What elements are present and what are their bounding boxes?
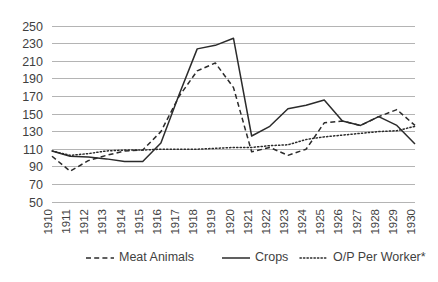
x-tick-label-1923: 1923	[278, 209, 290, 235]
chart-container: 250230210190170150130110907050 191019111…	[0, 0, 438, 282]
x-tick-label-1917: 1917	[169, 209, 181, 235]
x-tick-label-1911: 1911	[60, 209, 72, 234]
x-tick-label-1912: 1912	[78, 209, 90, 235]
y-tick-label: 190	[22, 72, 43, 86]
line-chart: 250230210190170150130110907050 191019111…	[0, 0, 438, 282]
y-tick-label: 230	[22, 37, 43, 51]
x-tick-label-1924: 1924	[296, 208, 308, 234]
y-tick-label: 130	[22, 125, 43, 139]
x-tick-label-1926: 1926	[332, 209, 344, 235]
chart-legend: Meat AnimalsCropsO/P Per Worker*	[86, 250, 426, 264]
y-tick-label: 250	[22, 20, 43, 34]
x-tick-label-1929: 1929	[387, 209, 399, 235]
legend-label-o-p-per-worker: O/P Per Worker*	[333, 250, 426, 264]
x-tick-label-1919: 1919	[205, 209, 217, 235]
y-tick-label: 90	[29, 160, 43, 174]
y-tick-label: 70	[29, 178, 43, 192]
y-tick-label: 110	[23, 143, 43, 157]
x-tick-label-1928: 1928	[369, 209, 381, 235]
x-tick-label-1921: 1921	[242, 209, 254, 235]
x-tick-label-1916: 1916	[151, 209, 163, 235]
legend-label-crops: Crops	[255, 250, 288, 264]
x-tick-label-1927: 1927	[351, 209, 363, 235]
x-tick-label-1925: 1925	[314, 209, 326, 235]
x-tick-label-1915: 1915	[133, 209, 145, 235]
x-axis-tick-labels: 1910191119121913191419151916191719181919…	[42, 208, 417, 234]
y-tick-label: 50	[29, 196, 43, 210]
y-tick-label: 210	[22, 55, 43, 69]
x-tick-label-1922: 1922	[260, 209, 272, 235]
chart-background	[0, 0, 438, 282]
x-tick-label-1910: 1910	[42, 209, 54, 235]
legend-label-meat-animals: Meat Animals	[119, 250, 194, 264]
x-tick-label-1918: 1918	[187, 209, 199, 235]
x-tick-label-1913: 1913	[96, 209, 108, 235]
x-tick-label-1914: 1914	[115, 208, 127, 234]
y-tick-label: 170	[22, 90, 43, 104]
x-tick-label-1930: 1930	[405, 209, 417, 235]
x-tick-label-1920: 1920	[224, 209, 236, 235]
y-tick-label: 150	[22, 108, 43, 122]
